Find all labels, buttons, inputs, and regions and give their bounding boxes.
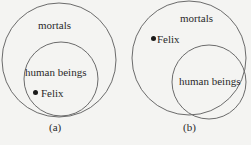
caption-b: (b) [183, 121, 196, 133]
mortals-label-b: mortals [180, 12, 213, 24]
felix-label-b: Felix [157, 33, 180, 45]
felix-point-b [151, 36, 156, 41]
caption-a: (a) [49, 121, 61, 133]
mortals-label-a: mortals [38, 19, 71, 31]
felix-point-a [33, 90, 38, 95]
human-beings-label-b: human beings [179, 75, 240, 87]
human-beings-circle-a [24, 42, 98, 116]
human-beings-label-a: human beings [25, 66, 86, 78]
felix-label-a: Felix [41, 87, 64, 99]
